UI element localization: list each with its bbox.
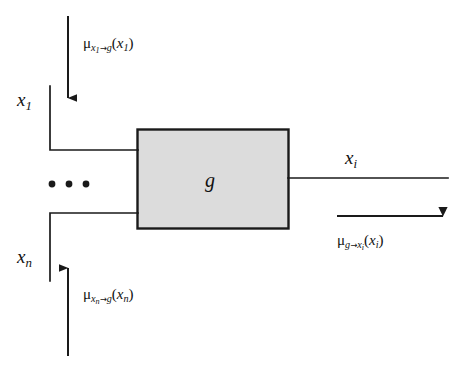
variable-label-xi: xi <box>345 148 357 171</box>
variable-label-xn: xn <box>17 247 32 270</box>
wire-xn <box>50 213 138 281</box>
wire-x1 <box>50 86 138 150</box>
message-argument: x <box>369 232 376 248</box>
paren-close: ) <box>129 286 134 302</box>
right-arrow-icon: → <box>100 43 107 53</box>
variable-label-x1: x1 <box>17 90 32 113</box>
diagram-canvas <box>0 0 462 365</box>
paren-close: ) <box>129 35 134 51</box>
variable-subscript: 1 <box>25 98 31 113</box>
factor-graph-diagram: x1 xn xi g μx1→g(x1) μxn→g(xn) μg→xi(xi) <box>0 0 462 365</box>
message-direction-subscript: g→xi <box>345 239 364 250</box>
factor-node-label: g <box>205 170 215 190</box>
right-arrow-icon: → <box>100 294 107 304</box>
mu-symbol: μ <box>83 286 91 302</box>
variable-subscript: n <box>25 255 31 270</box>
variable-subscript: i <box>353 156 357 171</box>
message-label-g-to-xi: μg→xi(xi) <box>337 233 383 252</box>
paren-close: ) <box>378 232 383 248</box>
ellipsis-dots <box>49 181 90 188</box>
message-label-x1-to-g: μx1→g(x1) <box>83 36 134 55</box>
message-label-xn-to-g: μxn→g(xn) <box>83 287 134 306</box>
message-direction-subscript: xn→g <box>91 293 112 304</box>
mu-symbol: μ <box>83 35 91 51</box>
mu-symbol: μ <box>337 232 345 248</box>
message-direction-subscript: x1→g <box>91 42 112 53</box>
